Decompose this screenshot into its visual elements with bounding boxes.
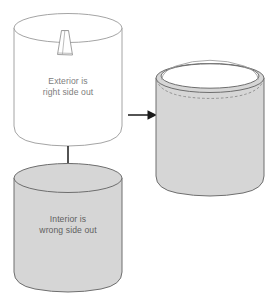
assembled-cylinder	[156, 60, 264, 196]
exterior-caption-line1: Exterior is	[48, 76, 87, 86]
interior-cylinder-body	[14, 178, 122, 292]
interior-cylinder-top	[14, 164, 122, 193]
interior-cylinder: Interior is wrong side out	[14, 164, 122, 293]
assembled-cylinder-mouth	[161, 64, 259, 88]
interior-caption-line2: wrong side out	[38, 225, 97, 235]
exterior-caption-line2: right side out	[43, 87, 94, 97]
assembled-cylinder-body	[156, 78, 264, 196]
exterior-cylinder: Exterior is right side out	[14, 14, 122, 147]
diagram-canvas: Exterior is right side out Interior is w…	[0, 0, 278, 297]
arrow-right-icon	[128, 110, 157, 120]
interior-caption-line1: Interior is	[50, 214, 86, 224]
sewing-diagram: Exterior is right side out Interior is w…	[0, 0, 278, 297]
